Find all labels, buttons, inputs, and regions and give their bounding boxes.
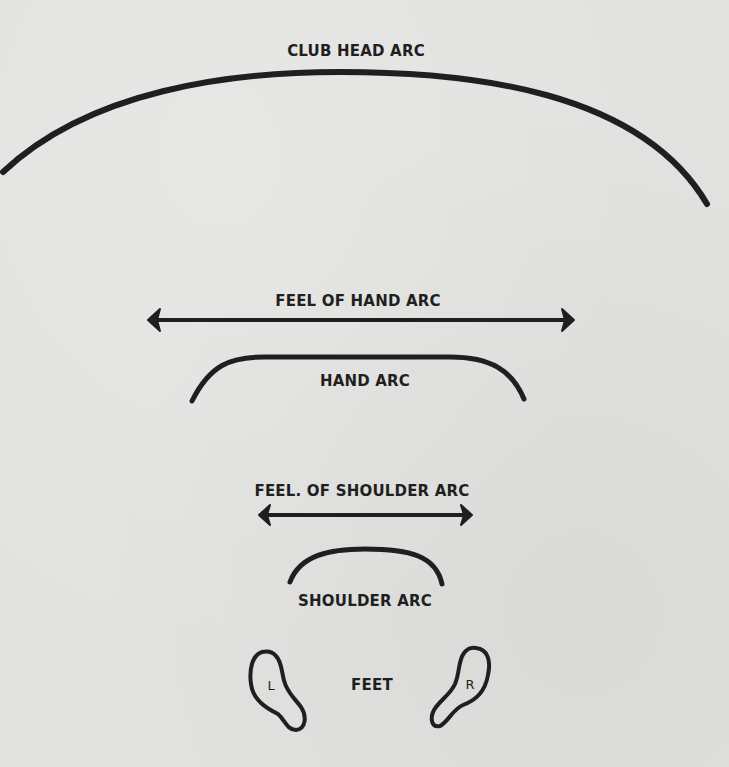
shoulder-arc-label: SHOULDER ARC [298,592,432,610]
club-head-arc-label: CLUB HEAD ARC [287,42,425,60]
right-foot-letter: R [465,677,474,692]
club-head-arc [3,72,707,204]
shoulder-arc [290,549,442,584]
left-foot-letter: L [267,678,274,693]
right-foot-outline [432,648,489,727]
feel-of-hand-arc-label: FEEL OF HAND ARC [275,292,441,310]
feel-of-hand-arc-arrow [148,309,574,331]
feet-label: FEET [351,676,393,694]
feel-of-shoulder-arc-label: FEEL. OF SHOULDER ARC [254,482,469,500]
feel-of-shoulder-arc-arrow [259,505,472,525]
hand-arc-label: HAND ARC [320,372,410,390]
left-foot-outline [250,651,304,730]
